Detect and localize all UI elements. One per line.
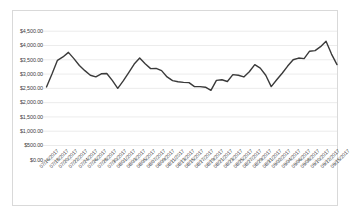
y-tick-label: $3,000.00 bbox=[2, 71, 43, 77]
gridlines-group bbox=[43, 31, 338, 160]
series-line-daily-sales bbox=[47, 41, 338, 90]
y-tick-label: $1,500.00 bbox=[2, 114, 43, 120]
y-tick-label: $500.00 bbox=[2, 142, 43, 148]
y-tick-label: $4,000.00 bbox=[2, 42, 43, 48]
y-tick-label: $4,500.00 bbox=[2, 28, 43, 34]
y-tick-label: $2,500.00 bbox=[2, 85, 43, 91]
y-tick-label: $3,500.00 bbox=[2, 57, 43, 63]
line-chart-plot bbox=[0, 0, 350, 215]
y-tick-label: $2,000.00 bbox=[2, 99, 43, 105]
y-tick-label: $0.00 bbox=[2, 157, 43, 163]
y-tick-label: $1,000.00 bbox=[2, 128, 43, 134]
